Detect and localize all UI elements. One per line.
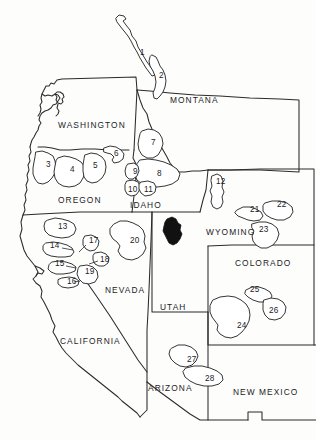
washington-outline [30, 77, 137, 147]
area-label-20: 20 [130, 236, 140, 245]
oregon-coast [23, 147, 31, 215]
area-label-13: 13 [58, 222, 68, 231]
area-outline-20 [110, 221, 146, 260]
state-label-arizona: ARIZONA [148, 383, 193, 393]
state-label-idaho: IDAHO [130, 200, 162, 210]
western-us-map-svg: MONTANA WASHINGTON OREGON IDAHO WYOMING … [0, 0, 316, 440]
olympic-coast [38, 94, 42, 116]
area-label-6: 6 [114, 149, 119, 158]
state-label-colorado: COLORADO [235, 258, 291, 268]
area-outline-1 [116, 15, 155, 76]
washington-east-border [134, 90, 137, 150]
state-label-utah: UTAH [160, 302, 186, 312]
area-label-4: 4 [70, 165, 75, 174]
area-label-22: 22 [277, 200, 287, 209]
leader-17 [79, 245, 86, 252]
area-outline-24 [210, 296, 250, 338]
filled-area-utah [163, 217, 182, 245]
area-label-26: 26 [269, 306, 279, 315]
state-label-oregon: OREGON [58, 195, 102, 205]
area-label-10: 10 [128, 185, 138, 194]
state-label-new-mexico: NEW MEXICO [233, 387, 298, 397]
area-label-7: 7 [151, 138, 156, 147]
idaho-wyoming-border [200, 170, 208, 212]
area-label-25: 25 [250, 285, 260, 294]
california-mexico-border [140, 382, 147, 417]
area-label-27: 27 [187, 355, 197, 364]
map-figure: MONTANA WASHINGTON OREGON IDAHO WYOMING … [0, 0, 316, 440]
area-label-3: 3 [46, 160, 51, 169]
area-label-21: 21 [250, 205, 260, 214]
area-outline-3 [33, 151, 56, 184]
new-mexico-bootheel [248, 412, 316, 420]
area-label-11: 11 [144, 185, 153, 194]
area-label-8: 8 [157, 169, 162, 178]
area-label-12: 12 [216, 177, 226, 186]
area-label-5: 5 [93, 161, 98, 170]
state-label-wyoming: WYOMING [206, 227, 255, 237]
state-label-california: CALIFORNIA [60, 336, 121, 346]
state-label-montana: MONTANA [170, 95, 219, 105]
puget-sound-inlet-2 [56, 104, 59, 116]
area-label-15: 15 [55, 259, 65, 268]
state-label-nevada: NEVADA [105, 285, 145, 295]
oregon-california-border [23, 212, 132, 215]
area-label-24: 24 [237, 321, 247, 330]
area-label-19: 19 [85, 267, 95, 276]
utah-nevada-border [147, 212, 152, 382]
area-label-2: 2 [159, 71, 164, 80]
area-label-14: 14 [50, 241, 60, 250]
area-label-23: 23 [259, 225, 269, 234]
area-label-17: 17 [89, 236, 99, 245]
area-label-16: 16 [67, 277, 77, 286]
area-label-1: 1 [140, 48, 145, 57]
area-label-18: 18 [100, 255, 110, 264]
area-label-9: 9 [133, 167, 138, 176]
area-label-28: 28 [205, 374, 215, 383]
state-label-washington: WASHINGTON [58, 120, 126, 130]
